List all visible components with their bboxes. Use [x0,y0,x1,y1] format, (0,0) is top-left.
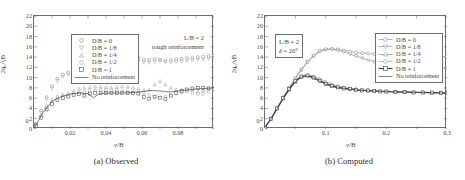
legend-observed[interactable]: D/B = 0D/B = 1/8D/B = 1/4D/B = 1/2D/B = … [71,34,139,84]
y-tick: 16 [26,44,32,50]
legend-marker-none-icon [378,73,393,80]
legend-marker-circle-icon [378,58,393,65]
x-axis-label-a: v/B [114,141,123,148]
y-tick: 20 [257,23,263,29]
legend-marker-circle-icon [74,37,89,44]
y-tick: 22 [257,13,263,19]
y-tick: 14 [26,54,32,60]
x-tick: 0.06 [137,130,148,136]
caption-observed: (a) Observed [0,156,232,166]
legend-marker-circle-icon [378,36,393,43]
legend-label: No reinforcement [92,74,135,80]
legend-label: D/B = 1/2 [92,59,116,65]
y-tick: 0 [260,126,263,132]
legend-label: D/B = 0 [396,37,416,43]
x-tick: 0.04 [101,130,112,136]
y-tick: 18 [26,33,32,39]
x-tick: 0.2 [382,130,390,136]
delta-value: = 20° [282,47,298,54]
y-tick: 4 [260,105,263,111]
y-axis-label-b: 2qu/γB [230,55,238,74]
legend-item[interactable]: D/B = 1/8 [74,44,135,51]
y-tick: 10 [26,75,32,81]
plot-area-observed: 0246810121416182022 0.020.040.060.080 D/… [33,15,213,128]
legend-marker-circle-icon [74,59,89,66]
legend-label: D/B = 0 [92,38,112,44]
y-tick: 12 [257,64,263,70]
legend-label: D/B = 1/2 [396,58,420,64]
x-tick: 0.08 [173,130,184,136]
legend-item[interactable]: D/B = 1/2 [378,58,439,65]
y-tick: 6 [260,95,263,101]
y-tick: 20 [26,23,32,29]
legend-marker-square-icon [378,65,393,72]
y-tick: 8 [29,85,32,91]
legend-label: D/B = 1/4 [92,52,116,58]
x-tick: 0.02 [65,130,76,136]
legend-marker-none-icon [74,74,89,81]
y-tick: 6 [29,95,32,101]
legend-item[interactable]: D/B = 1 [378,65,439,72]
legend-item[interactable]: No reinforcement [378,72,439,79]
caption-computed: (b) Computed [233,156,465,166]
annotation-observed: L/B = 2 rough reinforcement [152,33,204,52]
y-tick: 4 [29,105,32,111]
legend-marker-square-icon [74,66,89,73]
y-tick: 22 [26,13,32,19]
legend-marker-triangle-up-icon [378,51,393,58]
panel-observed: 2qu/γB v/B 0246810121416182022 0.020.040… [0,0,232,180]
legend-item[interactable]: D/B = 1 [74,66,135,73]
y-tick: 10 [257,75,263,81]
legend-label: D/B = 1 [396,66,416,72]
y-tick: 18 [257,33,263,39]
legend-item[interactable]: D/B = 0 [74,37,135,44]
legend-item[interactable]: D/B = 1/4 [74,52,135,59]
legend-label: D/B = 1/4 [396,51,420,57]
legend-label: D/B = 1/8 [396,44,420,50]
x-tick-origin: 0 [256,118,259,124]
x-tick: 0.3 [443,130,451,136]
figure-two-panel-chart: 2qu/γB v/B 0246810121416182022 0.020.040… [0,0,465,180]
legend-marker-triangle-down-icon [74,44,89,51]
legend-label: No reinforcement [396,73,439,79]
x-axis-label-b: v/B [346,141,355,148]
panel-computed: 2qu/γB v/B 0246810121416182022 0.10.20.3… [233,0,465,180]
y-tick: 8 [260,85,263,91]
y-tick: 2 [260,116,263,122]
legend-item[interactable]: No reinforcement [74,73,135,80]
x-tick-origin: 0 [25,118,28,124]
legend-marker-triangle-up-icon [74,52,89,59]
legend-label: D/B = 1 [92,67,112,73]
legend-label: D/B = 1/8 [92,45,116,51]
x-tick: 0.1 [322,130,330,136]
y-tick: 2 [29,116,32,122]
legend-item[interactable]: D/B = 1/2 [74,59,135,66]
y-tick: 12 [26,64,32,70]
annotation-box-computed: L/B = 2 δ = 20° [275,34,303,58]
y-tick: 16 [257,44,263,50]
legend-marker-triangle-down-icon [378,43,393,50]
legend-item[interactable]: D/B = 1/8 [378,43,439,50]
y-tick: 0 [29,126,32,132]
legend-computed[interactable]: D/B = 0D/B = 1/8D/B = 1/4D/B = 1/2D/B = … [375,33,443,83]
plot-area-computed: 0246810121416182022 0.10.20.30 D/B = 0D/… [264,15,446,128]
legend-item[interactable]: D/B = 0 [378,36,439,43]
legend-item[interactable]: D/B = 1/4 [378,51,439,58]
y-tick: 14 [257,54,263,60]
y-axis-label-a: 2qu/γB [0,55,7,74]
